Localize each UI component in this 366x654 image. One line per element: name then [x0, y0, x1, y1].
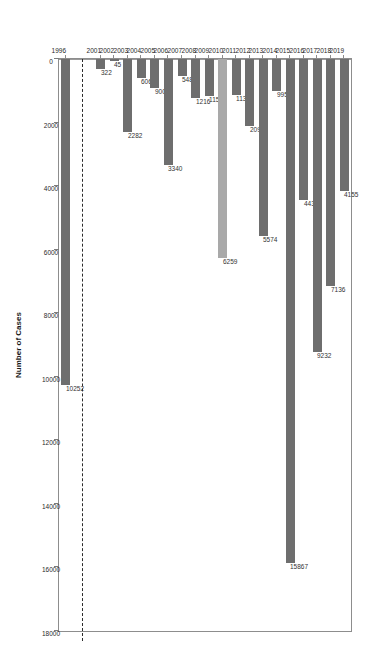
category-tick — [181, 55, 182, 59]
x-tick-label: 14000 — [42, 503, 60, 510]
bar-1996 — [61, 59, 70, 385]
x-axis-title: Number of Cases — [14, 58, 23, 632]
bar-row: 2282 — [122, 59, 134, 631]
x-tick-label: 6000 — [44, 249, 58, 256]
category-tick — [195, 55, 196, 59]
category-label-2002: 2002 — [100, 47, 114, 54]
bar-2008 — [191, 59, 200, 98]
x-tick-label: 4000 — [44, 185, 58, 192]
category-label-2009: 2009 — [195, 47, 209, 54]
bar-row: 9232 — [311, 59, 323, 631]
x-tick-label: 0 — [49, 58, 53, 65]
axis-break-dashed-line — [82, 59, 83, 641]
bar-row: 10252 — [60, 59, 72, 631]
category-tick — [140, 55, 141, 59]
bar-2017 — [313, 59, 322, 352]
category-tick — [154, 55, 155, 59]
category-tick — [262, 55, 263, 59]
category-tick — [316, 55, 317, 59]
bar-row: 4155 — [338, 59, 350, 631]
bar-row: 1131 — [230, 59, 242, 631]
category-tick — [222, 55, 223, 59]
plot-area: 1025232245228260690033405481216115462591… — [59, 59, 351, 631]
bar-2009 — [205, 59, 214, 96]
bar-2018 — [326, 59, 335, 286]
category-tick — [235, 55, 236, 59]
x-tick-label: 8000 — [44, 312, 58, 319]
bar-value-label: 45 — [114, 60, 121, 67]
category-label-2016: 2016 — [289, 47, 303, 54]
category-label-2012: 2012 — [235, 47, 249, 54]
category-tick — [289, 55, 290, 59]
category-label-2007: 2007 — [168, 47, 182, 54]
bar-row: 548 — [176, 59, 188, 631]
bar-row: 7136 — [325, 59, 337, 631]
x-tick-label: 10000 — [42, 376, 60, 383]
bar-row: 3340 — [163, 59, 175, 631]
bar-row: 45 — [108, 59, 120, 631]
category-label-2015: 2015 — [276, 47, 290, 54]
category-tick — [168, 55, 169, 59]
bar-2014 — [272, 59, 281, 91]
bar-2005 — [150, 59, 159, 88]
bar-row: 606 — [135, 59, 147, 631]
category-tick — [343, 55, 344, 59]
category-label-2006: 2006 — [154, 47, 168, 54]
x-tick — [54, 58, 59, 59]
category-tick — [127, 55, 128, 59]
bar-2012 — [245, 59, 254, 126]
plot-frame: 1025232245228260690033405481216115462591… — [58, 58, 352, 632]
category-label-2014: 2014 — [262, 47, 276, 54]
bar-row: 6259 — [217, 59, 229, 631]
x-tick-label: 2000 — [44, 122, 58, 129]
bar-2010 — [218, 59, 227, 258]
x-tick-label: 12000 — [42, 439, 60, 446]
category-label-1996: 1996 — [51, 47, 65, 54]
bar-value-label: 10252 — [66, 384, 84, 391]
bar-row: 995 — [271, 59, 283, 631]
category-tick — [113, 55, 114, 59]
category-label-2004: 2004 — [127, 47, 141, 54]
bar-2016 — [299, 59, 308, 200]
bar-row: 2093 — [244, 59, 256, 631]
category-tick — [303, 55, 304, 59]
bar-row: 900 — [149, 59, 161, 631]
bar-2019 — [340, 59, 349, 191]
bar-2013 — [259, 59, 268, 236]
category-label-2019: 2019 — [330, 47, 344, 54]
category-label-2011: 2011 — [222, 47, 236, 54]
bar-value-label: 4155 — [344, 191, 358, 198]
category-tick — [249, 55, 250, 59]
category-tick — [330, 55, 331, 59]
figure: 1025232245228260690033405481216115462591… — [0, 0, 366, 654]
bar-row: 1216 — [190, 59, 202, 631]
category-tick — [100, 55, 101, 59]
category-tick — [208, 55, 209, 59]
bar-row: 5574 — [257, 59, 269, 631]
chart-page: 1025232245228260690033405481216115462591… — [0, 0, 366, 654]
rotated-figure-container: 1025232245228260690033405481216115462591… — [0, 0, 366, 654]
bar-row: 1154 — [203, 59, 215, 631]
bar-2006 — [164, 59, 173, 165]
bar-2015 — [286, 59, 295, 563]
bar-row: 322 — [95, 59, 107, 631]
bar-row: 4431 — [298, 59, 310, 631]
bar-2007 — [178, 59, 187, 76]
bar-2003 — [123, 59, 132, 132]
x-tick-label: 18000 — [42, 630, 60, 637]
category-tick — [276, 55, 277, 59]
bar-2011 — [232, 59, 241, 95]
bar-2004 — [137, 59, 146, 78]
category-tick — [65, 55, 66, 59]
category-label-2010: 2010 — [208, 47, 222, 54]
bar-row: 15867 — [284, 59, 296, 631]
x-tick-label: 16000 — [42, 566, 60, 573]
category-label-2008: 2008 — [181, 47, 195, 54]
value-axis: 0200040006000800010000120001400016000180… — [58, 58, 59, 632]
category-label-2017: 2017 — [303, 47, 317, 54]
category-label-2013: 2013 — [249, 47, 263, 54]
